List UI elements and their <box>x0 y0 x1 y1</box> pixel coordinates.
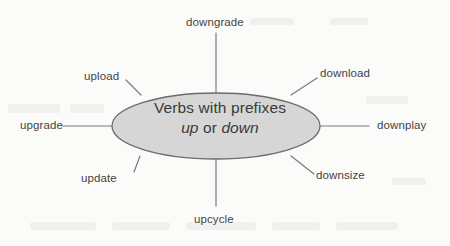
node-label-downgrade: downgrade <box>186 17 244 29</box>
connector-download <box>291 78 317 95</box>
node-label-downplay: downplay <box>377 120 426 132</box>
connector-update <box>134 156 140 172</box>
prefix-down: down <box>221 119 258 136</box>
node-label-downsize: downsize <box>316 170 365 182</box>
node-label-upload: upload <box>84 71 119 83</box>
word-web-diagram: Verbs with prefixes up or down downgrade… <box>0 0 450 246</box>
center-line-1: Verbs with prefixes <box>154 99 286 116</box>
node-label-download: download <box>320 68 370 80</box>
node-label-upgrade: upgrade <box>20 120 63 132</box>
connector-downsize <box>291 156 314 174</box>
center-line-2: up or down <box>122 118 318 138</box>
center-node-text: Verbs with prefixes up or down <box>122 98 318 138</box>
prefix-up: up <box>181 119 198 136</box>
node-label-update: update <box>81 173 117 185</box>
node-label-upcycle: upcycle <box>194 214 234 226</box>
conjunction: or <box>199 119 222 136</box>
connector-upload <box>126 80 141 95</box>
